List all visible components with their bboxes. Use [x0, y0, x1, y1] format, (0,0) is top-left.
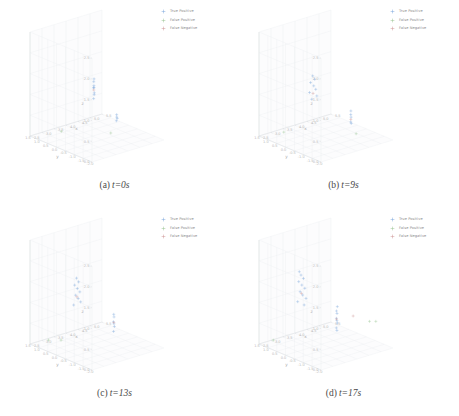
svg-text:2.5: 2.5	[34, 344, 40, 348]
svg-text:1.5: 1.5	[25, 136, 31, 140]
svg-text:-1.5: -1.5	[78, 367, 85, 371]
legend-d: True Positive False Positive False Negat…	[390, 216, 452, 240]
svg-text:-1.0: -1.0	[69, 363, 76, 367]
plus-marker-icon	[390, 226, 395, 231]
svg-text:-1.5: -1.5	[307, 159, 314, 163]
svg-text:0.5: 0.5	[272, 352, 278, 356]
svg-text:4.5: 4.5	[82, 329, 88, 333]
svg-text:4.5: 4.5	[311, 121, 317, 125]
legend-c: True Positive False Positive False Negat…	[161, 216, 223, 240]
legend-row-true-positive: True Positive	[390, 8, 452, 15]
legend-label-true-positive: True Positive	[170, 9, 194, 14]
svg-text:0.5: 0.5	[43, 144, 49, 148]
svg-text:-1.5: -1.5	[78, 159, 85, 163]
svg-text:1.5: 1.5	[84, 306, 90, 310]
svg-text:5.0: 5.0	[94, 325, 100, 329]
svg-text:3.0: 3.0	[46, 132, 52, 136]
legend-a: True Positive False Positive False Negat…	[161, 8, 223, 32]
svg-text:2.5: 2.5	[313, 264, 319, 268]
svg-text:3.0: 3.0	[46, 340, 52, 344]
svg-text:1.0: 1.0	[263, 348, 269, 352]
svg-text:1.5: 1.5	[313, 306, 319, 310]
svg-text:0.0: 0.0	[281, 356, 287, 360]
subplot-caption-d: (d)t=17s	[229, 388, 458, 398]
svg-text:1.5: 1.5	[84, 98, 90, 102]
svg-text:y: y	[285, 154, 288, 159]
subplot-panel-b: 0.00.51.01.52.02.5z1.51.00.50.0-0.5-1.0-…	[229, 0, 458, 208]
svg-text:1.5: 1.5	[254, 136, 260, 140]
svg-text:y: y	[285, 362, 288, 367]
svg-text:0.0: 0.0	[281, 148, 287, 152]
subplot-caption-b: (b)t=9s	[229, 180, 458, 190]
svg-text:5.0: 5.0	[323, 325, 329, 329]
svg-text:2.5: 2.5	[263, 344, 269, 348]
svg-text:-2.0: -2.0	[316, 370, 323, 374]
svg-text:-0.5: -0.5	[60, 359, 67, 363]
svg-text:-0.5: -0.5	[289, 151, 296, 155]
legend-label-false-positive: False Positive	[399, 18, 424, 23]
svg-text:-1.0: -1.0	[298, 155, 305, 159]
svg-text:-2.0: -2.0	[87, 370, 94, 374]
plus-marker-icon	[161, 234, 166, 239]
subplot-caption-a: (a)t=0s	[0, 180, 229, 190]
plus-marker-icon	[161, 26, 166, 31]
plus-marker-icon	[390, 217, 395, 222]
legend-row-false-positive: False Positive	[390, 17, 452, 24]
svg-text:3.5: 3.5	[287, 336, 293, 340]
svg-text:2.5: 2.5	[263, 136, 269, 140]
svg-text:2.0: 2.0	[313, 285, 319, 289]
svg-text:4.5: 4.5	[82, 121, 88, 125]
svg-text:0.5: 0.5	[313, 348, 319, 352]
svg-text:3.5: 3.5	[58, 128, 64, 132]
legend-label-false-negative: False Negative	[399, 26, 426, 31]
svg-text:0.5: 0.5	[43, 352, 49, 356]
svg-text:2.5: 2.5	[34, 136, 40, 140]
legend-b: True Positive False Positive False Negat…	[390, 8, 452, 32]
caption-tag-c: (c)	[97, 388, 108, 398]
caption-tag-a: (a)	[99, 180, 110, 190]
svg-text:0.5: 0.5	[84, 348, 90, 352]
legend-label-false-negative: False Negative	[170, 26, 197, 31]
caption-time-a: t=0s	[112, 180, 130, 190]
svg-text:2.5: 2.5	[84, 56, 90, 60]
plus-marker-icon	[390, 9, 395, 14]
caption-time-b: t=9s	[341, 180, 359, 190]
legend-label-true-positive: True Positive	[399, 217, 423, 222]
plus-marker-icon	[390, 26, 395, 31]
legend-row-false-negative: False Negative	[161, 25, 223, 32]
svg-text:-1.0: -1.0	[298, 363, 305, 367]
plus-marker-icon	[390, 18, 395, 23]
svg-text:3.5: 3.5	[287, 128, 293, 132]
svg-text:-1.5: -1.5	[307, 367, 314, 371]
plus-marker-icon	[161, 226, 166, 231]
svg-text:3.0: 3.0	[275, 340, 281, 344]
caption-tag-d: (d)	[326, 388, 337, 398]
svg-text:5.5: 5.5	[106, 322, 112, 326]
subplot-caption-c: (c)t=13s	[0, 388, 229, 398]
svg-text:1.5: 1.5	[254, 344, 260, 348]
svg-text:2.5: 2.5	[84, 264, 90, 268]
subplot-panel-c: 0.00.51.01.52.02.5z1.51.00.50.0-0.5-1.0-…	[0, 208, 229, 416]
legend-label-true-positive: True Positive	[399, 9, 423, 14]
svg-text:-0.5: -0.5	[60, 151, 67, 155]
legend-row-false-positive: False Positive	[161, 225, 223, 232]
svg-text:3.0: 3.0	[275, 132, 281, 136]
plus-marker-icon	[161, 217, 166, 222]
svg-text:1.0: 1.0	[34, 348, 40, 352]
legend-row-true-positive: True Positive	[161, 8, 223, 15]
caption-time-c: t=13s	[110, 388, 132, 398]
svg-text:-2.0: -2.0	[316, 162, 323, 166]
legend-row-false-negative: False Negative	[161, 233, 223, 240]
legend-label-false-negative: False Negative	[399, 234, 426, 239]
svg-text:0.0: 0.0	[52, 356, 58, 360]
subplot-panel-a: 0.00.51.01.52.02.5z1.51.00.50.0-0.5-1.0-…	[0, 0, 229, 208]
figure-root: 0.00.51.01.52.02.5z1.51.00.50.0-0.5-1.0-…	[0, 0, 459, 416]
svg-text:5.5: 5.5	[106, 114, 112, 118]
legend-row-false-negative: False Negative	[390, 233, 452, 240]
caption-time-d: t=17s	[339, 388, 361, 398]
legend-label-true-positive: True Positive	[170, 217, 194, 222]
svg-text:2.0: 2.0	[84, 285, 90, 289]
legend-label-false-positive: False Positive	[170, 226, 195, 231]
legend-row-false-negative: False Negative	[390, 25, 452, 32]
svg-text:3.5: 3.5	[58, 336, 64, 340]
